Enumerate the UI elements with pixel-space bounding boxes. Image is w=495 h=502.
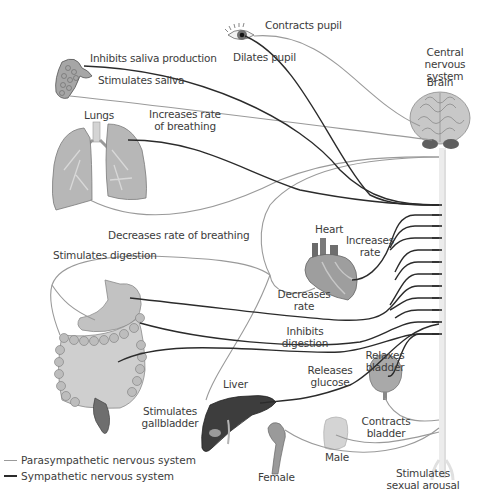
label-stimulates-saliva: Stimulates saliva — [98, 74, 184, 86]
label-contracts-pupil: Contracts pupil — [265, 19, 342, 31]
label-stimulates-sexual-arousal: Stimulates sexual arousal — [378, 467, 468, 491]
label-releases-glucose: Releases glucose — [300, 364, 360, 388]
label-heart-decreases-rate: Decreases rate — [274, 288, 334, 312]
digestive-system-icon — [55, 280, 147, 434]
label-relaxes-bladder: Relaxes bladder — [360, 349, 410, 373]
label-liver: Liver — [223, 378, 248, 390]
legend-item-sympathetic: Sympathetic nervous system — [4, 470, 174, 482]
label-brain: Brain — [420, 76, 460, 88]
label-inhibits-digestion: Inhibits digestion — [275, 325, 335, 349]
salivary-gland-icon — [56, 59, 92, 98]
legend-label-sympathetic: Sympathetic nervous system — [21, 470, 174, 482]
label-male: Male — [325, 451, 349, 463]
female-reproductive-icon — [268, 423, 285, 474]
label-heart-increases-rate: Increases rate — [345, 234, 395, 258]
male-reproductive-icon — [324, 417, 348, 450]
legend-item-parasympathetic: Parasympathetic nervous system — [4, 454, 196, 466]
liver-icon — [202, 396, 276, 452]
legend-swatch-parasympathetic — [4, 460, 17, 461]
label-increases-breathing: Increases rate of breathing — [145, 108, 225, 132]
label-decreases-breathing: Decreases rate of breathing — [108, 229, 249, 241]
label-contracts-bladder: Contracts bladder — [356, 415, 416, 439]
legend-swatch-sympathetic — [4, 475, 17, 477]
label-heart: Heart — [315, 223, 343, 235]
label-stimulates-digestion: Stimulates digestion — [53, 249, 157, 261]
label-female: Female — [258, 471, 295, 483]
spinal-cord — [432, 148, 453, 480]
label-inhibits-saliva: Inhibits saliva production — [90, 52, 217, 64]
brain-icon — [410, 92, 470, 149]
label-stimulates-gallbladder: Stimulates gallbladder — [135, 405, 205, 429]
label-dilates-pupil: Dilates pupil — [233, 51, 296, 63]
legend-label-parasympathetic: Parasympathetic nervous system — [21, 454, 196, 466]
label-lungs: Lungs — [84, 109, 114, 121]
lungs-icon — [52, 122, 146, 210]
